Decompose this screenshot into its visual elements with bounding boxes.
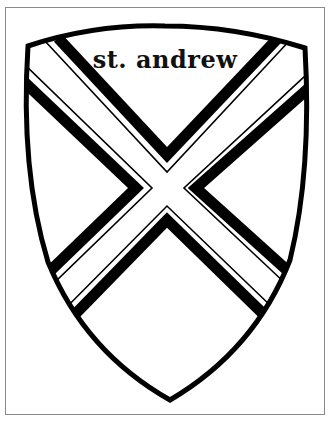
shield-motto: st. andrew — [93, 45, 239, 74]
shield-illustration: st. andrew — [0, 0, 332, 425]
